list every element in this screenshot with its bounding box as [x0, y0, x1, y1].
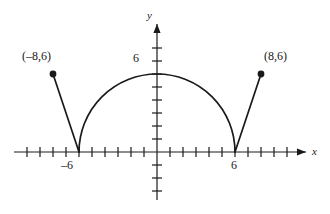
y-axis-group: [152, 24, 162, 200]
x-tick-label-neg6: –6: [61, 159, 73, 171]
x-axis-arrowhead: [297, 148, 306, 155]
left-endpoint-dot: [50, 71, 57, 78]
x-tick-label-6: 6: [231, 159, 237, 171]
point-label-8-6: (8,6): [264, 50, 287, 62]
point-label-neg8-6: (–8,6): [22, 50, 51, 62]
left-line-segment: [53, 74, 79, 152]
right-endpoint-dot: [258, 71, 265, 78]
y-axis-arrowhead: [153, 24, 160, 33]
right-line-segment: [235, 74, 261, 152]
graph-figure: [0, 0, 330, 214]
x-axis-label: x: [312, 146, 317, 157]
x-axis-group: [14, 147, 306, 157]
y-tick-label-6: 6: [133, 52, 139, 64]
y-axis-label: y: [147, 10, 152, 21]
